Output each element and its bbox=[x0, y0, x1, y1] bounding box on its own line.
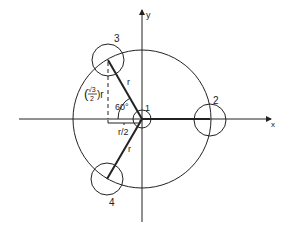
diagram-canvas: x y 1 2 3 4 r r 60° r/2 ( √3 2 )r bbox=[0, 0, 289, 230]
height-label-two: 2 bbox=[90, 95, 94, 102]
circle-4-label: 4 bbox=[109, 197, 115, 208]
circle-1-label: 1 bbox=[145, 103, 150, 113]
circle-3-label: 3 bbox=[114, 33, 120, 44]
x-axis-label: x bbox=[271, 120, 275, 129]
height-label-close-paren-r: )r bbox=[97, 89, 104, 100]
half-r-bracket bbox=[108, 120, 140, 123]
angle-label: 60° bbox=[115, 102, 129, 112]
y-axis-label: y bbox=[146, 10, 151, 20]
height-label-sqrt3: √3 bbox=[88, 86, 96, 93]
radius-label-upper: r bbox=[127, 77, 130, 87]
circle-2-label: 2 bbox=[213, 95, 219, 106]
radius-label-lower: r bbox=[128, 144, 131, 154]
height-label: ( √3 2 )r bbox=[84, 86, 104, 102]
half-r-label: r/2 bbox=[118, 127, 129, 137]
